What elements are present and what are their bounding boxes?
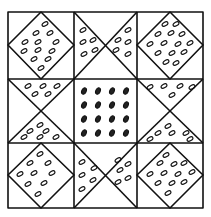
hourglass-top-center (74, 12, 137, 79)
hourglass-middle-left (8, 79, 74, 143)
hourglass-bottom-center (74, 143, 137, 208)
outer-frame (8, 12, 203, 208)
diamond-top-right (137, 12, 203, 79)
center-square-seeds (81, 87, 130, 137)
quilt-block-diagram (0, 0, 211, 217)
diamond-top-left (8, 12, 74, 79)
hourglass-middle-right (137, 79, 203, 143)
diamond-bottom-right (137, 143, 203, 208)
diamond-bottom-left (8, 143, 74, 208)
